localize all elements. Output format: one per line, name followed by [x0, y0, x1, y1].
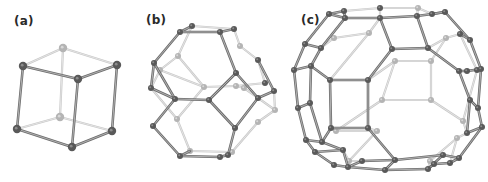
vertex-ball — [172, 96, 178, 102]
vertex-ball — [308, 63, 314, 69]
vertex-ball — [415, 5, 421, 11]
vertex-ball — [475, 105, 481, 111]
vertex-ball — [340, 147, 346, 153]
vertex-ball — [440, 152, 446, 158]
vertex-ball — [233, 83, 239, 89]
front-layer — [13, 5, 485, 173]
vertex-ball — [464, 130, 470, 136]
model-truncated-cuboctahedron — [291, 5, 485, 173]
vertex-ball — [271, 88, 277, 94]
model-truncated-octahedron — [148, 23, 277, 160]
vertex-ball — [479, 124, 485, 130]
figure: (a) (b) (c) — [0, 0, 488, 182]
vertex-ball — [318, 45, 324, 51]
vertex-ball — [327, 77, 333, 83]
vertex-ball — [382, 167, 388, 173]
vertex-ball — [303, 137, 309, 143]
vertex-ball — [425, 166, 431, 172]
vertex-ball — [272, 107, 278, 113]
panel-label-a: (a) — [14, 14, 34, 28]
vertex-ball — [359, 158, 365, 164]
vertex-ball — [206, 97, 212, 103]
vertex-ball — [454, 135, 460, 141]
vertex-ball — [307, 100, 313, 106]
vertex-ball — [237, 43, 243, 49]
vertex-ball — [374, 128, 380, 134]
vertex-ball — [255, 119, 261, 125]
vertex-ball — [365, 77, 371, 83]
vertex-ball — [255, 95, 261, 101]
vertex-ball — [392, 58, 398, 64]
vertex-ball — [326, 11, 332, 17]
vertex-ball — [177, 29, 183, 35]
vertex-ball — [377, 5, 383, 11]
vertex-ball — [312, 149, 318, 155]
vertex-ball — [414, 13, 420, 19]
vertex-ball — [467, 97, 473, 103]
vertex-ball — [460, 118, 466, 124]
vertex-ball — [151, 60, 157, 66]
model-cube — [13, 61, 121, 151]
vertex-ball — [148, 85, 154, 91]
vertex-ball — [425, 45, 431, 51]
vertex-ball — [365, 125, 371, 131]
vertex-ball — [302, 41, 308, 47]
vertex-ball — [456, 68, 462, 74]
vertex-ball — [443, 35, 449, 41]
vertex-ball — [366, 30, 372, 36]
vertex-ball — [392, 157, 398, 163]
vertex-ball — [447, 160, 453, 166]
vertex-ball — [464, 68, 470, 74]
vertex-ball — [231, 26, 237, 32]
vertex-ball — [255, 57, 261, 63]
vertex-ball — [233, 70, 239, 76]
vertex-ball — [175, 53, 181, 59]
vertex-ball — [262, 80, 268, 86]
vertex-ball — [341, 8, 347, 14]
vertex-ball — [201, 84, 207, 90]
vertex-ball — [379, 97, 385, 103]
vertex-ball — [291, 67, 297, 73]
vertex-ball — [431, 161, 437, 167]
panel-label-b: (b) — [146, 13, 166, 27]
vertex-ball — [150, 123, 156, 129]
vertex-ball — [328, 125, 334, 131]
vertex-ball — [428, 58, 434, 64]
vertex-ball — [377, 15, 383, 21]
vertex-ball — [232, 125, 238, 131]
vertex-ball — [345, 164, 351, 170]
vertex-ball — [225, 152, 231, 158]
vertex-ball — [467, 37, 473, 43]
polyhedra-canvas — [0, 0, 488, 182]
vertex-ball — [177, 153, 183, 159]
vertex-ball — [389, 46, 395, 52]
vertex-ball — [457, 31, 463, 37]
vertex-ball — [295, 105, 301, 111]
vertex-ball — [319, 139, 325, 145]
vertex-ball — [217, 29, 223, 35]
vertex-ball — [442, 9, 448, 15]
vertex-ball — [342, 15, 348, 21]
vertex-ball — [456, 155, 462, 161]
vertex-ball — [478, 66, 484, 72]
vertex-ball — [331, 162, 337, 168]
panel-label-c: (c) — [301, 13, 320, 27]
vertex-ball — [174, 116, 180, 122]
vertex-ball — [428, 97, 434, 103]
vertex-ball — [189, 23, 195, 29]
vertex-ball — [217, 154, 223, 160]
vertex-ball — [429, 11, 435, 17]
